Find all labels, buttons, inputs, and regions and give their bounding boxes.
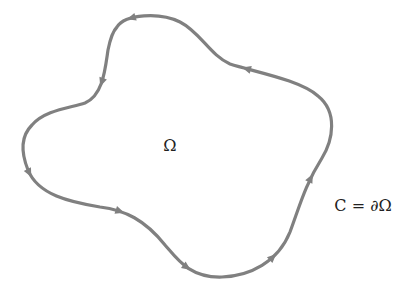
orientation-arrow-icon	[99, 77, 107, 87]
boundary-curve	[23, 16, 332, 277]
orientation-arrow-icon	[127, 13, 137, 21]
boundary-label: C = ∂Ω	[334, 196, 391, 215]
region-diagram: Ω C = ∂Ω	[0, 0, 413, 289]
orientation-arrow-icon	[115, 206, 125, 214]
region-label: Ω	[163, 136, 176, 155]
